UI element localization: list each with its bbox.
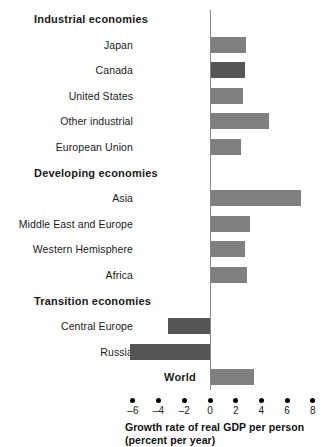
bar <box>210 62 245 78</box>
x-axis: –6–4–202468 <box>0 398 329 412</box>
axis-tick-label: –4 <box>148 405 170 416</box>
axis-tick-dot <box>233 398 238 403</box>
axis-tick-label: 2 <box>225 405 247 416</box>
axis-tick-label: –2 <box>173 405 195 416</box>
group-heading-label: Transition economies <box>34 290 234 312</box>
axis-tick-label: –6 <box>122 405 144 416</box>
chart-row: Russia <box>0 341 329 363</box>
chart-group-row: Transition economies <box>0 290 329 312</box>
group-heading-label: World <box>0 366 196 388</box>
zero-axis-line <box>210 10 211 390</box>
axis-tick-dot <box>182 398 187 403</box>
axis-tick-dot <box>285 398 290 403</box>
axis-title-line-1: Growth rate of real GDP per person <box>125 421 304 434</box>
chart-group-row: World <box>0 366 329 388</box>
row-label: Japan <box>0 34 133 56</box>
chart-row: Western Hemisphere <box>0 238 329 260</box>
row-label: European Union <box>0 136 133 158</box>
row-label: Africa <box>0 264 133 286</box>
row-label: Middle East and Europe <box>0 213 133 235</box>
bar <box>210 369 254 385</box>
chart-row: Japan <box>0 34 329 56</box>
chart-row: Canada <box>0 59 329 81</box>
bar <box>210 37 246 53</box>
bar <box>210 113 269 129</box>
chart-row: European Union <box>0 136 329 158</box>
axis-tick-dot <box>310 398 315 403</box>
bar <box>210 190 301 206</box>
bar <box>210 267 247 283</box>
chart-row: Central Europe <box>0 315 329 337</box>
axis-tick-dot <box>208 398 213 403</box>
row-label: Central Europe <box>0 315 133 337</box>
chart-row: Middle East and Europe <box>0 213 329 235</box>
bar <box>210 139 241 155</box>
chart-row: Other industrial <box>0 110 329 132</box>
bar <box>168 318 210 334</box>
group-heading-label: Industrial economies <box>34 8 234 30</box>
row-label: Other industrial <box>0 110 133 132</box>
chart-group-row: Developing economies <box>0 162 329 184</box>
axis-tick-label: 4 <box>250 405 272 416</box>
row-label: Asia <box>0 187 133 209</box>
bar <box>210 241 245 257</box>
bar <box>130 344 210 360</box>
chart-row: Africa <box>0 264 329 286</box>
axis-tick-dot <box>130 398 135 403</box>
row-label: Canada <box>0 59 133 81</box>
bar <box>210 88 243 104</box>
axis-title-line-2: (percent per year) <box>125 434 216 447</box>
axis-tick-dot <box>156 398 161 403</box>
axis-tick-label: 8 <box>302 405 324 416</box>
axis-tick-dot <box>259 398 264 403</box>
row-label: Russia <box>0 341 133 363</box>
axis-tick-label: 0 <box>199 405 221 416</box>
axis-tick-label: 6 <box>276 405 298 416</box>
chart-row: United States <box>0 85 329 107</box>
row-label: Western Hemisphere <box>0 238 133 260</box>
bar <box>210 216 250 232</box>
chart-row: Asia <box>0 187 329 209</box>
chart-group-row: Industrial economies <box>0 8 329 30</box>
row-label: United States <box>0 85 133 107</box>
group-heading-label: Developing economies <box>34 162 234 184</box>
